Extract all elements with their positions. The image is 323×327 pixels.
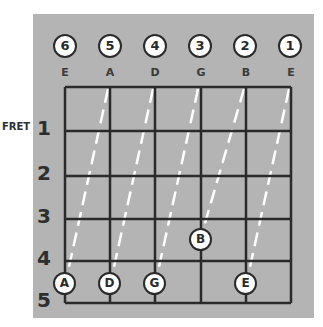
- note-marker-d: D: [98, 272, 121, 295]
- note-marker-b: B: [189, 228, 212, 251]
- string-shift-guides: [67, 89, 289, 276]
- note-marker-g: G: [143, 272, 166, 295]
- note-marker-a: A: [53, 272, 76, 295]
- note-marker-e: E: [234, 272, 257, 295]
